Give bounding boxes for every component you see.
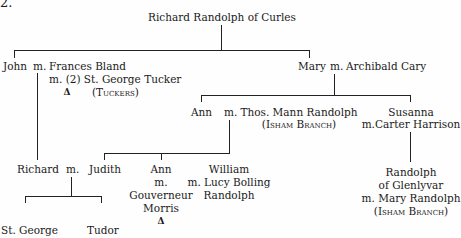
ann-marriage-marker: m. xyxy=(224,106,237,118)
root-person: Richard Randolph of Curles xyxy=(148,11,296,23)
connector-line xyxy=(309,50,310,58)
connector-line xyxy=(14,50,15,58)
ann2-marriage-marker: m. xyxy=(154,176,167,188)
connector-line xyxy=(101,196,102,203)
william-surname: Randolph xyxy=(203,189,254,201)
john-marriage-marker: m. xyxy=(33,60,46,72)
triangle-icon: Δ xyxy=(158,216,165,226)
connector-line xyxy=(104,153,230,154)
connector-line xyxy=(410,132,411,162)
susanna-spouse: m.Carter Harrison xyxy=(362,118,461,130)
connector-line xyxy=(104,153,105,160)
judith-name: Judith xyxy=(89,163,121,175)
triangle-icon: Δ xyxy=(64,87,71,97)
ann2-spouse-first: Gouverneur xyxy=(129,189,192,201)
connector-line xyxy=(229,120,230,154)
connector-line xyxy=(221,25,222,50)
ann-name: Ann xyxy=(191,106,212,118)
spouse-remarriage: m. (2) St. George Tucker xyxy=(49,73,181,85)
thos-name: Thos. Mann Randolph xyxy=(240,106,357,118)
william-spouse: m. Lucy Bolling xyxy=(187,176,270,188)
connector-line xyxy=(71,177,72,197)
ann2-spouse-last: Morris xyxy=(143,202,179,214)
mary-spouse: Archibald Cary xyxy=(346,60,426,72)
connector-line xyxy=(14,50,310,51)
william-name: William xyxy=(209,163,249,175)
glenlyvar-spouse: m. Mary Randolph xyxy=(362,192,461,204)
john-name: John xyxy=(3,60,27,72)
connector-line xyxy=(201,95,411,96)
connector-line xyxy=(25,196,102,197)
thos-branch: (Isham Branch) xyxy=(262,118,336,130)
tudor-name: Tudor xyxy=(87,224,119,236)
tuckers-label: (Tuckers) xyxy=(92,86,139,98)
richard-name: Richard xyxy=(17,163,59,175)
richard-marriage-marker: m. xyxy=(66,163,79,175)
glenlyvar-place: of Glenlyvar xyxy=(379,179,444,191)
connector-line xyxy=(25,196,26,203)
ann2-name: Ann xyxy=(150,163,171,175)
susanna-name: Susanna xyxy=(388,106,433,118)
mary-marriage-marker: m. xyxy=(330,60,343,72)
figure-number: 2. xyxy=(0,0,12,9)
glenlyvar-branch: (Isham Branch) xyxy=(374,205,448,217)
connector-line xyxy=(410,95,411,102)
stgeorge-name: St. George xyxy=(1,224,58,236)
connector-line xyxy=(334,74,335,95)
john-spouse: Frances Bland xyxy=(49,60,126,72)
connector-line xyxy=(37,73,38,160)
mary-name: Mary xyxy=(298,60,326,72)
connector-line xyxy=(161,153,162,160)
connector-line xyxy=(201,95,202,102)
glenlyvar-name: Randolph xyxy=(385,166,436,178)
